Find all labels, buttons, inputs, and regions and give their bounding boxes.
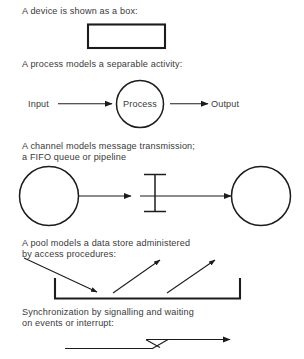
channel-caption-line2: a FIFO queue or pipeline <box>22 152 126 164</box>
channel-sink-circle <box>232 167 291 226</box>
process-node-label: Process <box>123 99 157 109</box>
process-caption: A process models a separable activity: <box>22 59 182 71</box>
diagram-page: A device is shown as a box: A process mo… <box>0 0 304 359</box>
diagram-canvas: Process Input Output <box>0 0 304 359</box>
device-caption: A device is shown as a box: <box>22 6 138 18</box>
sync-caption-line2: on events or interrupt: <box>22 318 114 330</box>
pool-caption-line2: by access procedures: <box>22 249 116 261</box>
input-label: Input <box>28 99 49 109</box>
channel-source-circle <box>20 167 79 226</box>
output-label: Output <box>211 99 240 109</box>
channel-ibeam-icon <box>144 174 166 212</box>
pool-read-arrow-1 <box>113 260 160 293</box>
pool-caption-line1: A pool models a data store administered <box>22 238 190 250</box>
pool-container <box>55 278 240 299</box>
process-circle <box>117 81 164 128</box>
sync-step-arrow <box>65 340 230 349</box>
channel-caption-line1: A channel models message transmission; <box>22 141 195 153</box>
pool-write-arrow <box>24 258 97 292</box>
device-box <box>88 25 165 49</box>
sync-caption-line1: Synchronization by signalling and waitin… <box>22 307 194 319</box>
pool-read-arrow-2 <box>167 260 215 293</box>
